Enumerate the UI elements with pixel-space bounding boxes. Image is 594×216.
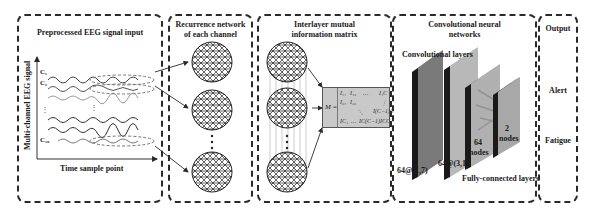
output-class-alert: Alert	[540, 86, 576, 96]
fc1-label-line2: nodes	[469, 148, 489, 157]
matrix-cell: I₂₁	[340, 99, 346, 105]
matrix-cell: IC₁	[340, 118, 348, 124]
matrix-cell: I₁₁	[340, 90, 346, 96]
matrix-cell: I₂₂	[350, 99, 356, 105]
layer1-label: 64@(1,7)	[397, 166, 428, 175]
matrix-separator	[337, 88, 338, 127]
fc2-label-line1: 2	[505, 124, 509, 133]
fc2-label-line2: nodes	[499, 134, 519, 143]
matrix-label: M =	[325, 103, 337, 111]
mutual-info-matrix: M = I₁₁ I₁₂ … I₁C I₂₁ I₂₂ ⋮ ⋱ I(C−1)C IC…	[322, 87, 390, 128]
mutual-info-title-line1: Interlayer mutual	[259, 20, 390, 30]
matrix-cell: ⋱	[357, 108, 363, 115]
svg-text:⋮: ⋮	[41, 105, 49, 114]
recurrence-title-line1: Recurrence network	[170, 20, 251, 30]
fc1-label-line1: 64	[474, 138, 482, 147]
matrix-cell: IC(C−1)	[359, 118, 380, 124]
cnn-title-line2: networks	[394, 30, 535, 40]
layer2-label: 64@(3,1)	[438, 159, 469, 168]
mutual-info-title-line2: information matrix	[259, 30, 390, 40]
matrix-cell: …	[351, 118, 356, 124]
panel-recurrence: Recurrence network of each channel	[168, 14, 253, 203]
eeg-signals: ⋮ ⋮	[41, 75, 154, 146]
recurrence-title-line2: of each channel	[170, 30, 251, 40]
output-title: Output	[540, 24, 576, 34]
cnn-title-line1: Convolutional neural	[394, 20, 535, 30]
conv-layers-label: Convolutional layers	[402, 50, 473, 59]
matrix-cell: I₁₂	[350, 90, 356, 96]
output-class-fatigue: Fatigue	[540, 136, 576, 146]
svg-text:⋮: ⋮	[90, 103, 98, 112]
matrix-cell: I₁C	[379, 90, 387, 96]
panel-output: Output Alert Fatigue	[538, 14, 578, 203]
matrix-cell: …	[363, 90, 368, 96]
fc-layers-label: Fully-connected layers	[462, 174, 539, 183]
matrix-cell: I(C−1)C	[373, 108, 394, 114]
matrix-cell: ⋮	[381, 99, 387, 106]
matrix-cell: ICC	[380, 118, 390, 124]
